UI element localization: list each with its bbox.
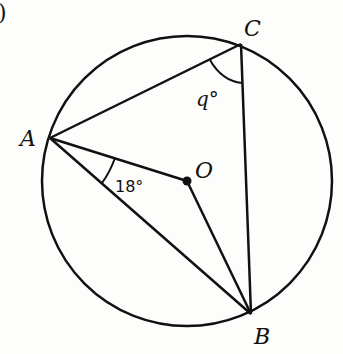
label-B: B <box>253 324 270 349</box>
label-C: C <box>244 16 261 41</box>
geometry-diagram: ) A C O B 18° q° <box>0 0 343 354</box>
segment-CB <box>241 44 251 314</box>
angle-label-q: q° <box>196 87 219 111</box>
segment-OB <box>187 181 251 314</box>
part-marker: ) <box>0 0 7 25</box>
segment-AO <box>50 138 187 181</box>
center-dot <box>183 177 192 186</box>
segment-AB <box>50 138 251 314</box>
angle-arc-A <box>102 158 115 183</box>
label-O: O <box>195 158 213 183</box>
label-A: A <box>18 126 36 151</box>
angle-label-18: 18° <box>115 177 143 196</box>
angle-arc-C <box>210 60 242 83</box>
